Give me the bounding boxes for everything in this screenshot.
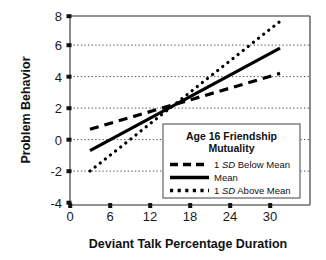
legend-title-line-1: Age 16 Friendship	[186, 130, 277, 142]
y-tick-label-4: 4	[55, 70, 62, 85]
legend-title-line-2: Mutuality	[208, 142, 254, 154]
x-tick-12	[148, 203, 152, 208]
legend: Age 16 Friendship Mutuality 1 SD Below M…	[163, 124, 300, 198]
x-tick-label-30: 30	[263, 209, 277, 224]
y-tick-2	[67, 106, 72, 110]
y-tick-4	[67, 75, 72, 79]
problem-behavior-line-chart: 8 6 4 2 0 -2 -4 0 6 12 18 24 30	[0, 0, 326, 260]
chart-figure: 8 6 4 2 0 -2 -4 0 6 12 18 24 30	[0, 0, 326, 260]
legend-label-mean: Mean	[214, 172, 238, 183]
legend-label-1sd-above-mean: 1 SD Above Mean	[214, 185, 291, 196]
y-tick-minus2	[67, 169, 72, 173]
x-tick-18	[188, 203, 192, 208]
x-axis-tick-labels: 0 6 12 18 24 30	[66, 209, 277, 224]
y-tick-label-minus2: -2	[50, 164, 62, 179]
y-tick-8	[67, 14, 72, 18]
y-axis-title: Problem Behavior	[19, 56, 33, 163]
x-tick-30	[268, 203, 272, 208]
x-tick-24	[228, 203, 232, 208]
y-tick-label-0: 0	[55, 133, 62, 148]
legend-label-1sd-below-mean: 1 SD Below Mean	[214, 159, 290, 170]
y-tick-label-8: 8	[55, 9, 62, 24]
x-tick-label-6: 6	[106, 209, 113, 224]
x-tick-label-18: 18	[183, 209, 197, 224]
x-tick-6	[108, 203, 112, 208]
y-tick-label-6: 6	[55, 38, 62, 53]
y-tick-0	[67, 138, 72, 142]
y-axis-tick-labels: 8 6 4 2 0 -2 -4	[50, 9, 62, 211]
x-tick-label-12: 12	[143, 209, 157, 224]
x-tick-label-24: 24	[223, 209, 237, 224]
x-axis-title: Deviant Talk Percentage Duration	[89, 237, 287, 251]
y-tick-label-minus4: -4	[50, 196, 62, 211]
y-tick-6	[67, 43, 72, 47]
y-tick-label-2: 2	[55, 101, 62, 116]
x-tick-0	[68, 203, 72, 208]
x-tick-label-0: 0	[66, 209, 73, 224]
